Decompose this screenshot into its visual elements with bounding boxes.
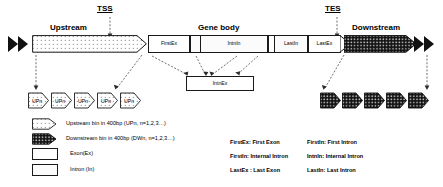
downstream-region-arrow [344,35,418,53]
upstream-region-title: Upstream [50,24,87,32]
gene-segment-first-exon[interactable]: FirstEx [148,35,190,53]
abbrev-left-1: FirstEx: First Exon [230,140,280,146]
upstream-region-arrow [32,35,148,53]
upstream-bin-label: UPn [32,99,42,104]
gene-segment-label: IntnIn [228,41,241,46]
gene-segment-last-intron[interactable]: LastIn [274,35,308,53]
legend-text-intron: Intron (In) [70,167,94,173]
abbrev-left-2: FirstIn: Internal Intron [230,154,288,160]
upstream-bin-label: UPn [78,99,88,104]
abbrev-left-3: LastEx : Last Exon [230,168,280,174]
legend-text-exon: Exon(Ex) [70,151,93,157]
legend-swatch-exon [32,148,58,160]
upstream-bin-label: UPn [55,99,65,104]
gene-segment-last-exon[interactable]: LastEx [308,35,341,53]
tss-label: TSS [97,4,113,13]
gene-segment-label: LastIn [284,41,298,46]
legend-swatch-upstream-bin [32,118,58,130]
legend-text-upstream-bin: Upstream bin in 400bp (UPn, n=1,2,3…) [66,121,166,127]
legend-swatch-downstream-bin [32,133,58,145]
abbrev-right-1: FirstIn: First Intron [307,140,357,146]
gene-segment-label: LastEx [317,41,333,46]
left-direction-chevron [8,36,34,52]
abbrev-right-2: IntnIn: Internal Intron [307,154,363,160]
internal-exon-callout-box[interactable]: IntnEx [186,76,254,91]
abbrev-right-3: LastIn: Last Intron [307,168,356,174]
gene-segment-internal-intron[interactable]: IntnIn [200,35,268,53]
legend-swatch-intron [32,164,58,176]
gene-body-region-title: Gene body [198,24,239,32]
downstream-region-title: Downstream [352,24,400,32]
legend-text-downstream-bin: Downstream bin in 400bp (DWn, n=1,2,3…) [66,136,175,142]
tes-label: TES [325,4,341,13]
downstream-bins-row [320,92,434,112]
gene-segment-label: FirstEx [161,41,177,46]
upstream-bin-label: UPn [124,99,134,104]
upstream-bin-label: UPn [101,99,111,104]
internal-exon-callout-label: IntnEx [213,81,228,86]
